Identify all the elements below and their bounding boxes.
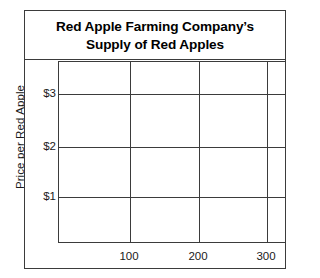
x-tick-label-100: 100 [106,250,152,263]
gridline-x-100 [130,62,131,242]
chart-title-line-2: Supply of Red Apples [86,36,224,54]
y-tick-label-2: $2 [24,140,56,153]
gridline-x-200 [199,62,200,242]
gridline-y-3 [59,94,285,95]
x-tick-label-200: 200 [175,250,221,263]
chart-title: Red Apple Farming Company’s Supply of Re… [25,11,285,60]
gridline-y-2 [59,147,285,148]
plot-area [58,61,285,243]
gridline-x-300 [267,62,268,242]
gridline-y-1 [59,197,285,198]
x-tick-label-300: 300 [243,250,289,263]
y-tick-label-3: $3 [24,87,56,100]
chart-title-line-1: Red Apple Farming Company’s [56,18,254,36]
chart-frame: Red Apple Farming Company’s Supply of Re… [24,10,286,269]
y-tick-label-1: $1 [24,190,56,203]
